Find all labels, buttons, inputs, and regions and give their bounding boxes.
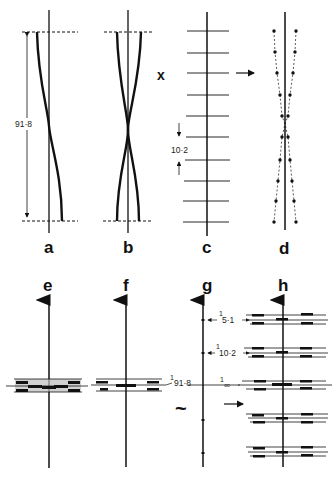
- layer-den-infinity: ∞: [224, 380, 230, 390]
- panel-f: f 1 91·8: [91, 276, 191, 467]
- dimension-label: 91·8: [15, 119, 32, 129]
- panel-label-g: g: [202, 276, 212, 295]
- layer-line-label: 91·8: [174, 378, 191, 388]
- panel-label-e: e: [43, 276, 52, 295]
- fourier-transform-symbol: ~: [175, 397, 187, 419]
- panel-d: d: [272, 12, 297, 258]
- panel-label-c: c: [202, 238, 211, 257]
- panel-h: h: [238, 276, 332, 467]
- panel-a: 91·8 a: [12, 10, 78, 257]
- panel-label-b: b: [123, 238, 133, 257]
- spacing-label: 10·2: [171, 145, 188, 155]
- panel-g: g 1 5·1 1 10·2 1 ∞: [188, 276, 249, 467]
- diagram-canvas: 91·8 a b x 10·2 c: [0, 0, 336, 478]
- layer-den-5-1: 5·1: [222, 315, 235, 325]
- panel-c: 10·2 c: [171, 12, 230, 257]
- helix-strand-2: [128, 32, 141, 221]
- panel-label-d: d: [279, 239, 289, 258]
- panel-b: b: [103, 10, 154, 257]
- layer-den-10-2: 10·2: [219, 348, 236, 358]
- panel-label-f: f: [123, 276, 129, 295]
- panel-e: e: [6, 276, 88, 468]
- panel-label-a: a: [44, 238, 54, 257]
- panel-label-h: h: [278, 276, 288, 295]
- helix-strand-1: [117, 32, 128, 221]
- cross-symbol: x: [157, 67, 165, 83]
